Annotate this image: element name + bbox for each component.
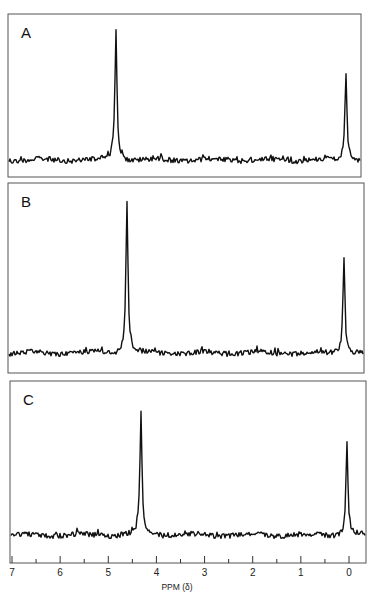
spectrum-trace bbox=[9, 30, 360, 164]
panel-frame bbox=[8, 183, 364, 373]
axis-title: PPM (δ) bbox=[161, 582, 192, 592]
tick-label: 3 bbox=[202, 567, 208, 578]
tick-label: 5 bbox=[106, 567, 112, 578]
panel-label: A bbox=[21, 24, 31, 41]
tick-label: 2 bbox=[250, 567, 256, 578]
spectrum-panel-a: A bbox=[8, 14, 361, 177]
tick-label: 0 bbox=[346, 567, 352, 578]
tick-label: 7 bbox=[9, 567, 15, 578]
ppm-axis: 76543210PPM (δ) bbox=[9, 556, 352, 592]
panel-label: B bbox=[21, 193, 31, 210]
tick-label: 6 bbox=[57, 567, 63, 578]
tick-label: 4 bbox=[154, 567, 160, 578]
nmr-spectra-figure: ABC76543210PPM (δ) bbox=[0, 0, 374, 594]
tick-label: 1 bbox=[298, 567, 304, 578]
spectrum-trace bbox=[9, 201, 363, 356]
panel-label: C bbox=[23, 391, 34, 408]
panel-frame bbox=[8, 14, 361, 177]
spectrum-trace bbox=[11, 411, 365, 538]
spectrum-panel-b: B bbox=[8, 183, 364, 373]
spectrum-panel-c: C bbox=[10, 381, 366, 563]
